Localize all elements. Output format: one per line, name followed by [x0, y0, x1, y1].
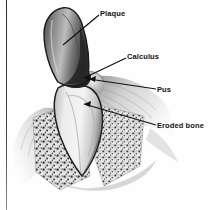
leader-calculus	[84, 58, 126, 78]
figure-canvas: Plaque Calculus Pus Eroded bone	[0, 0, 219, 210]
label-plaque: Plaque	[100, 9, 125, 18]
plaque-coated-crown	[44, 8, 89, 86]
tooth-illustration	[0, 0, 219, 210]
label-pus: Pus	[157, 85, 171, 94]
label-eroded-bone: Eroded bone	[157, 121, 204, 130]
label-calculus: Calculus	[127, 52, 159, 61]
